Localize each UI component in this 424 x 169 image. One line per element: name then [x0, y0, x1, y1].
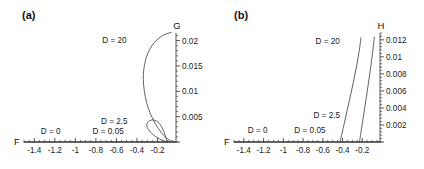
- curve-annotation-d-20: D = 20: [102, 36, 127, 45]
- panel-a-y-ticks: [176, 36, 180, 142]
- curve-annotation-d-0: D = 0: [248, 126, 268, 135]
- x-tick-label: -0.2: [150, 146, 165, 155]
- x-tick-label: -1.2: [48, 146, 63, 155]
- y-tick-label: 0.012: [386, 36, 407, 45]
- x-tick-label: -0.4: [335, 146, 350, 155]
- panel-a-y-tick-labels: 0.0050.010.0150.02: [182, 37, 203, 122]
- curve-annotation-d-2-5: D = 2.5: [313, 111, 340, 120]
- x-tick-label: -0.4: [130, 146, 145, 155]
- x-tick-label: -0.6: [316, 146, 331, 155]
- panel-a-curve-labels: D = 0D = 0.05D = 2.5D = 20: [41, 36, 128, 136]
- y-tick-label: 0.004: [386, 104, 407, 113]
- x-tick-label: -0.8: [296, 146, 311, 155]
- curve-d-20: [143, 32, 173, 142]
- panel-a-y-axis-name: G: [173, 20, 180, 31]
- panel-a-x-ticks: [24, 138, 173, 142]
- panel-b-y-ticks: [380, 33, 384, 142]
- panel-a-x-axis-name: F: [14, 136, 20, 147]
- x-tick-label: -1: [72, 146, 80, 155]
- y-tick-label: 0.015: [182, 62, 203, 71]
- x-tick-label: -1.4: [27, 146, 42, 155]
- x-tick-label: -0.8: [89, 146, 104, 155]
- panel-b-y-axis-name: H: [378, 20, 385, 31]
- panel-b-plot: -1.4-1.2-1-0.8-0.6-0.4-0.2 0.0020.0040.0…: [212, 0, 424, 169]
- panel-b-x-tick-labels: -1.4-1.2-1-0.8-0.6-0.4-0.2: [237, 146, 370, 155]
- curve-annotation-d-0: D = 0: [41, 127, 61, 136]
- curve-d-2-5: [340, 38, 361, 142]
- y-tick-label: 0.01: [182, 87, 198, 96]
- panel-b-curve-labels: D = 0D = 0.05D = 2.5D = 20: [248, 37, 341, 136]
- x-tick-label: -0.6: [109, 146, 124, 155]
- y-tick-label: 0.006: [386, 87, 407, 96]
- y-tick-label: 0.02: [182, 37, 198, 46]
- x-tick-label: -1: [280, 146, 288, 155]
- curve-d-20: [359, 37, 374, 142]
- x-tick-label: -0.2: [355, 146, 370, 155]
- curve-annotation-d-0-05: D = 0.05: [93, 127, 125, 136]
- y-tick-label: 0.002: [386, 121, 407, 130]
- y-tick-label: 0.005: [182, 113, 203, 122]
- y-tick-label: 0.008: [386, 70, 407, 79]
- x-tick-label: -1.4: [237, 146, 252, 155]
- panel-a-x-tick-labels: -1.4-1.2-1-0.8-0.6-0.4-0.2: [27, 146, 165, 155]
- curve-annotation-d-2-5: D = 2.5: [101, 117, 128, 126]
- panel-a-curves: [24, 32, 176, 142]
- panel-b-x-ticks: [234, 138, 377, 142]
- panel-b-y-tick-labels: 0.0020.0040.0060.0080.010.012: [386, 36, 407, 130]
- panel-a-plot: -1.4-1.2-1-0.8-0.6-0.4-0.2 0.0050.010.01…: [0, 0, 212, 169]
- figure-container: (a) -1.4-1.2-1-0.8-0.6-0.4-0.2 0.0050.01…: [0, 0, 424, 169]
- panel-b-x-axis-name: F: [224, 136, 230, 147]
- x-tick-label: -1.2: [257, 146, 272, 155]
- curve-annotation-d-0-05: D = 0.05: [294, 126, 326, 135]
- panel-b: (b) -1.4-1.2-1-0.8-0.6-0.4-0.2 0.0020.00…: [212, 0, 424, 169]
- curve-annotation-d-20: D = 20: [316, 37, 341, 46]
- panel-a: (a) -1.4-1.2-1-0.8-0.6-0.4-0.2 0.0050.01…: [0, 0, 212, 169]
- y-tick-label: 0.01: [386, 53, 402, 62]
